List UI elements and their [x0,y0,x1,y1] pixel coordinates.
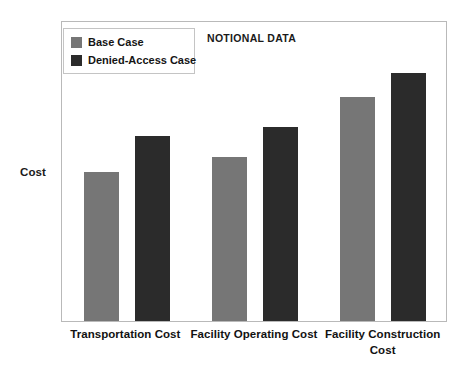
x-axis-category-label: Facility Construction Cost [312,326,453,358]
bar [84,172,119,322]
x-axis-category-label: Facility Operating Cost [184,326,325,342]
bar [391,73,426,321]
bar [135,136,170,321]
bar-group [318,22,446,321]
legend-item: Base Case [71,34,188,50]
legend-item-label: Base Case [88,36,144,48]
legend-item-label: Denied-Access Case [88,54,196,66]
bar-chart-figure: Cost Base CaseDenied-Access Case NOTIONA… [0,0,475,384]
legend-swatch-icon [71,55,82,66]
bar [340,97,375,321]
legend-item: Denied-Access Case [71,52,188,68]
x-axis-category-label: Transportation Cost [55,326,196,342]
notional-data-annotation: NOTIONAL DATA [207,32,296,44]
bar [212,157,247,321]
y-axis-title: Cost [8,165,58,179]
legend-swatch-icon [71,37,82,48]
bar-group [190,22,318,321]
bar [263,127,298,321]
chart-legend: Base CaseDenied-Access Case [63,28,195,74]
x-axis-category-labels: Transportation CostFacility Operating Co… [61,326,447,376]
plot-area: Base CaseDenied-Access Case NOTIONAL DAT… [61,21,447,322]
